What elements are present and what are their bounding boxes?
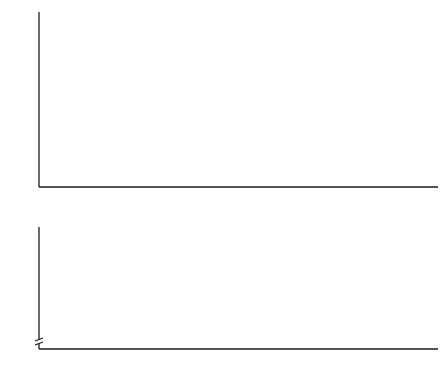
- axis-break-icon: [35, 338, 43, 345]
- chart-figure: [0, 0, 447, 376]
- attendance-chart: [0, 0, 438, 187]
- number-correct-chart: [35, 227, 438, 349]
